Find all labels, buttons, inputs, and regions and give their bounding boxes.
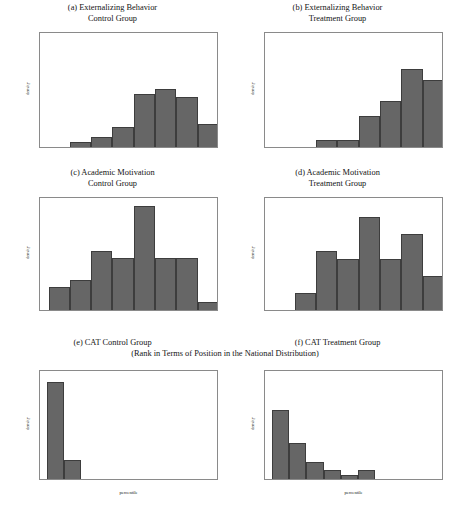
y-axis-tick bbox=[264, 293, 265, 294]
y-axis-label: density bbox=[25, 71, 30, 107]
histogram-bar bbox=[341, 475, 358, 479]
histogram-bar bbox=[134, 206, 155, 311]
histogram-bar bbox=[272, 410, 289, 479]
histogram-bar bbox=[324, 470, 341, 479]
y-axis-tick bbox=[39, 33, 40, 34]
y-axis-tick bbox=[264, 236, 265, 237]
y-axis-tick bbox=[39, 293, 40, 294]
figure-container: (a) Externalizing Behavior Control Group… bbox=[0, 0, 450, 511]
histogram-bar bbox=[337, 140, 358, 147]
panel-d-plot-area: 0.1.2.3.4.5.612345 bbox=[264, 197, 443, 311]
histogram-bar bbox=[134, 94, 155, 147]
histogram-bar bbox=[91, 251, 112, 310]
histogram-bar bbox=[380, 101, 401, 147]
panel-a: (a) Externalizing Behavior Control Group… bbox=[0, 0, 225, 166]
y-axis-label: density bbox=[250, 71, 255, 107]
panel-e-plot-area: 0.02.04.06.08020406080100 bbox=[39, 370, 218, 480]
x-axis-tick bbox=[49, 147, 50, 148]
x-axis-tick bbox=[316, 147, 317, 148]
y-axis-tick bbox=[264, 33, 265, 34]
histogram-bar bbox=[380, 259, 401, 310]
histogram-bar bbox=[198, 302, 218, 310]
histogram-bar bbox=[337, 259, 358, 310]
x-axis-tick bbox=[134, 147, 135, 148]
histogram-bar bbox=[401, 69, 422, 147]
x-axis-tick bbox=[176, 147, 177, 148]
histogram-bar bbox=[306, 462, 323, 479]
y-axis-tick bbox=[39, 454, 40, 455]
y-axis-tick bbox=[264, 217, 265, 218]
x-axis-tick bbox=[341, 479, 342, 480]
y-axis-tick bbox=[39, 198, 40, 199]
x-axis-tick bbox=[116, 479, 117, 480]
histogram-bar bbox=[316, 251, 337, 310]
x-axis-label: percentile bbox=[264, 490, 443, 495]
histogram-bar bbox=[289, 443, 306, 479]
histogram-bar bbox=[358, 470, 375, 479]
y-axis-tick bbox=[264, 198, 265, 199]
panel-b-plotwrap: 0.2.4.6.8112345density bbox=[225, 0, 450, 166]
y-axis-label: density bbox=[25, 406, 30, 442]
y-axis-tick bbox=[264, 371, 265, 372]
x-axis-tick bbox=[359, 310, 360, 311]
panel-f-plot-area: 0.02.04.06.08020406080100 bbox=[264, 370, 443, 480]
y-axis-tick bbox=[39, 236, 40, 237]
histogram-bar bbox=[295, 293, 316, 310]
panel-d: (d) Academic Motivation Treatment Group … bbox=[225, 166, 450, 329]
y-axis-tick bbox=[264, 426, 265, 427]
histogram-bar bbox=[112, 127, 133, 147]
y-axis-tick bbox=[39, 103, 40, 104]
y-axis-tick bbox=[264, 126, 265, 127]
x-axis-tick bbox=[272, 479, 273, 480]
x-axis-tick bbox=[185, 479, 186, 480]
histogram-bar bbox=[112, 258, 133, 310]
panel-a-plot-area: 0.2.4.6.8112345 bbox=[39, 32, 218, 148]
x-axis-tick bbox=[359, 147, 360, 148]
y-axis-tick bbox=[39, 399, 40, 400]
histogram-bar bbox=[176, 97, 197, 147]
x-axis-tick bbox=[150, 479, 151, 480]
panel-b: (b) Externalizing Behavior Treatment Gro… bbox=[225, 0, 450, 166]
x-axis-label: percentile bbox=[39, 490, 218, 495]
panel-c-plotwrap: 0.1.2.3.4.5.612345density bbox=[0, 166, 225, 329]
y-axis-tick bbox=[39, 217, 40, 218]
y-axis-tick bbox=[39, 56, 40, 57]
x-axis-tick bbox=[134, 310, 135, 311]
histogram-bar bbox=[70, 142, 91, 147]
x-axis-tick bbox=[401, 147, 402, 148]
y-axis-tick bbox=[39, 126, 40, 127]
panel-c-plot-area: 0.1.2.3.4.5.612345 bbox=[39, 197, 218, 311]
cat-subtitle: (Rank in Terms of Position in the Nation… bbox=[0, 349, 450, 360]
y-axis-tick bbox=[39, 79, 40, 80]
histogram-bar bbox=[423, 80, 443, 147]
histogram-bar bbox=[359, 116, 380, 147]
x-axis-tick bbox=[375, 479, 376, 480]
y-axis-tick bbox=[264, 274, 265, 275]
histogram-bar bbox=[423, 276, 443, 310]
x-axis-tick bbox=[401, 310, 402, 311]
x-axis-tick bbox=[91, 147, 92, 148]
histogram-bar bbox=[176, 258, 197, 310]
histogram-bar bbox=[316, 140, 337, 147]
y-axis-tick bbox=[264, 399, 265, 400]
x-axis-tick bbox=[316, 310, 317, 311]
histogram-bar bbox=[155, 258, 176, 310]
panel-c: (c) Academic Motivation Control Group 0.… bbox=[0, 166, 225, 329]
x-axis-tick bbox=[176, 310, 177, 311]
histogram-bar bbox=[359, 217, 380, 310]
histogram-bar bbox=[70, 280, 91, 310]
histogram-bar bbox=[64, 460, 81, 479]
histogram-bar bbox=[401, 234, 422, 310]
y-axis-tick bbox=[39, 255, 40, 256]
y-axis-tick bbox=[264, 103, 265, 104]
panel-b-plot-area: 0.2.4.6.8112345 bbox=[264, 32, 443, 148]
y-axis-label: density bbox=[25, 235, 30, 271]
y-axis-tick bbox=[39, 426, 40, 427]
histogram-bar bbox=[47, 382, 64, 479]
y-axis-tick bbox=[264, 56, 265, 57]
y-axis-tick bbox=[39, 371, 40, 372]
y-axis-label: density bbox=[250, 235, 255, 271]
x-axis-tick bbox=[274, 310, 275, 311]
y-axis-label: density bbox=[250, 406, 255, 442]
histogram-bar bbox=[91, 137, 112, 147]
